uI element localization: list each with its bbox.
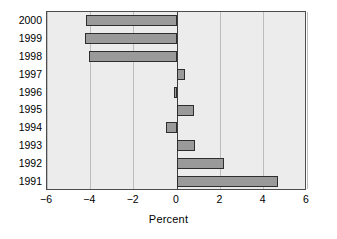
x-tick--4: −4: [74, 194, 104, 205]
y-tick-2000: 2000: [2, 15, 42, 25]
y-tick-1992: 1992: [2, 158, 42, 168]
y-tick-1994: 1994: [2, 122, 42, 132]
x-tick-4: 4: [248, 194, 278, 205]
bar-1994: [166, 122, 177, 133]
x-tick--2: −2: [118, 194, 148, 205]
x-axis-label: Percent: [0, 213, 337, 225]
bar-1995: [177, 105, 194, 116]
bar-2000: [86, 15, 177, 26]
bar-row: [47, 12, 305, 30]
x-tick-0: 0: [161, 194, 191, 205]
y-tick-1997: 1997: [2, 69, 42, 79]
x-tick-6: 6: [291, 194, 321, 205]
y-tick-1993: 1993: [2, 140, 42, 150]
bar-row: [47, 173, 305, 191]
bar-row: [47, 137, 305, 155]
y-tick-1995: 1995: [2, 104, 42, 114]
x-tick-2: 2: [204, 194, 234, 205]
bar-row: [47, 119, 305, 137]
bar-1993: [177, 140, 195, 151]
y-tick-1999: 1999: [2, 33, 42, 43]
bar-1998: [89, 51, 177, 62]
x-tick--6: −6: [31, 194, 61, 205]
bar-1997: [177, 69, 185, 80]
chart-figure: 2000199919981997199619951994199319921991…: [0, 0, 337, 239]
y-tick-1996: 1996: [2, 87, 42, 97]
bar-row: [47, 66, 305, 84]
y-tick-1998: 1998: [2, 51, 42, 61]
bar-row: [47, 155, 305, 173]
bar-row: [47, 102, 305, 120]
gridline-x-6: [307, 12, 308, 189]
bar-row: [47, 84, 305, 102]
bar-row: [47, 30, 305, 48]
bar-1992: [177, 158, 224, 169]
bar-1999: [85, 33, 177, 44]
bar-1996: [174, 87, 177, 98]
bar-row: [47, 48, 305, 66]
bar-1991: [177, 176, 278, 187]
y-tick-1991: 1991: [2, 176, 42, 186]
plot-area: [46, 11, 306, 190]
